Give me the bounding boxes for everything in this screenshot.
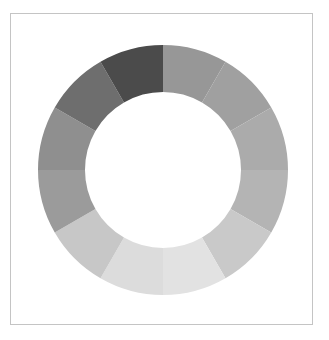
donut-segment-group	[38, 45, 288, 295]
figure-root	[0, 0, 329, 340]
donut-chart	[0, 0, 329, 340]
